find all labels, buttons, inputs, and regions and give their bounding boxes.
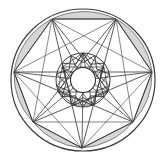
rosette-diagram — [0, 0, 167, 160]
center-core-circle — [71, 68, 96, 93]
figure-root — [0, 0, 167, 160]
